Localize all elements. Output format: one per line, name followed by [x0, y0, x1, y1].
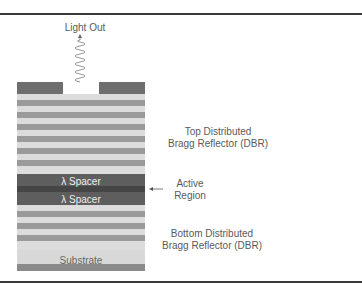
bottom-dbr-label: Bottom Distributed Bragg Reflector (DBR) — [152, 228, 272, 252]
arrow-left-icon — [149, 187, 163, 191]
bottom-dbr-stack — [17, 205, 145, 250]
bottom-dbr-label-line2: Bragg Reflector (DBR) — [152, 240, 272, 252]
light-wave-icon — [75, 38, 85, 82]
top-dbr-label: Top Distributed Bragg Reflector (DBR) — [158, 126, 278, 150]
substrate-label: Substrate — [16, 255, 146, 267]
arrow-up-icon — [78, 34, 82, 38]
top-dbr-label-line2: Bragg Reflector (DBR) — [158, 138, 278, 150]
top-dbr-label-line1: Top Distributed — [158, 126, 278, 138]
spacer-lower-label: λ Spacer — [16, 194, 146, 206]
top-contact-right — [99, 82, 145, 94]
spacer-upper-label: λ Spacer — [16, 176, 146, 188]
bottom-dbr-label-line1: Bottom Distributed — [152, 228, 272, 240]
light-out-label: Light Out — [56, 22, 114, 34]
top-dbr-stack — [17, 94, 145, 174]
active-region-label: Active Region — [168, 178, 212, 202]
active-region-label-line2: Region — [168, 190, 212, 202]
top-contact-left — [17, 82, 63, 94]
active-region-label-line1: Active — [168, 178, 212, 190]
